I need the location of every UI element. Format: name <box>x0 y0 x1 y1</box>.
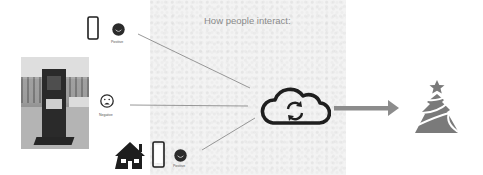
smartphone-icon <box>87 16 99 40</box>
happy-face-icon <box>174 149 187 162</box>
christmas-tree-icon <box>413 80 461 136</box>
sentiment-label-positive: Positive <box>111 40 123 44</box>
sentiment-label-negative: Negative <box>99 113 113 117</box>
house-icon <box>114 140 146 170</box>
smartphone-icon <box>152 141 165 168</box>
arrow-right-icon <box>334 100 399 116</box>
cloud-sync-icon <box>259 84 331 126</box>
sentiment-label-positive: Positive <box>173 164 185 168</box>
sad-face-icon <box>100 94 114 108</box>
sync-arrows-icon <box>288 101 302 121</box>
connector-lines <box>0 0 483 175</box>
happy-face-icon <box>112 23 125 36</box>
